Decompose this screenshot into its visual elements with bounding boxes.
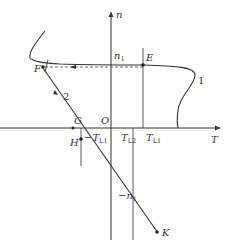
diagram-canvas: n T O n1 −n1 TL1 TL2 −TL1 E F G H K 1 2	[0, 0, 230, 251]
point-h-label: H	[69, 137, 79, 148]
y-axis-label: n	[116, 9, 122, 20]
t-l1-label: TL1	[146, 132, 161, 145]
point-f	[41, 65, 45, 69]
point-g	[72, 127, 75, 130]
point-e-label: E	[145, 52, 154, 63]
n1-label: n1	[114, 50, 125, 63]
point-h	[79, 137, 83, 141]
curve-2	[43, 68, 158, 233]
t-l2-label: TL2	[121, 132, 136, 145]
curve-2-label: 2	[63, 91, 69, 102]
point-f-label: F	[33, 63, 42, 74]
point-e	[141, 63, 145, 67]
neg-n1-label: −n1	[118, 190, 137, 203]
origin-label: O	[101, 115, 109, 126]
point-g-label: G	[74, 115, 82, 126]
curve-tick	[45, 60, 48, 72]
point-k	[155, 230, 159, 234]
curve-1	[30, 31, 195, 128]
line-2-arrow-icon	[53, 90, 58, 95]
point-k-label: K	[161, 227, 170, 238]
curve-1-label: 1	[198, 75, 204, 86]
x-axis-label: T	[211, 134, 219, 145]
dashed-arrow-icon	[70, 65, 76, 69]
